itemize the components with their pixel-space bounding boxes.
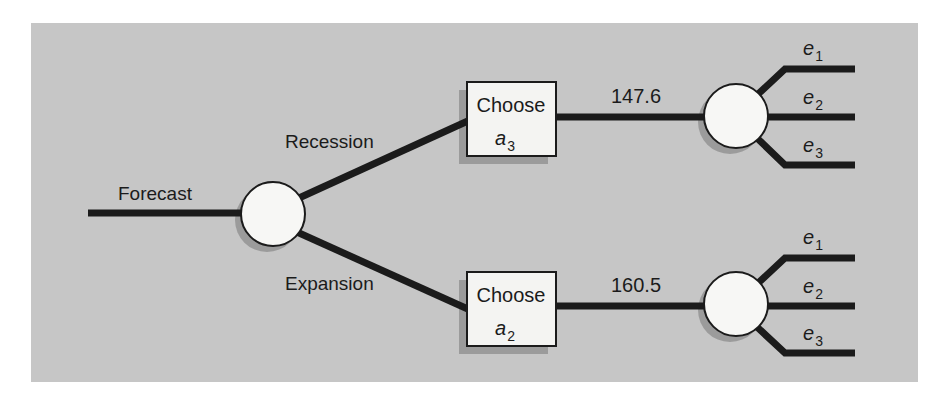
label-recession: Recession: [285, 131, 374, 152]
label-lower-outcome-e1-letter: e: [803, 226, 814, 248]
label-value-recession: 147.6: [611, 85, 661, 107]
label-upper-outcome-e2-subscript: 2: [815, 97, 823, 113]
label-forecast: Forecast: [118, 183, 193, 204]
decision-tree-figure: Forecast Recession Expansion Choose a3 C…: [0, 0, 947, 404]
label-expansion: Expansion: [285, 273, 374, 294]
label-upper-outcome-e2-letter: e: [803, 86, 814, 108]
root-chance-node[interactable]: [241, 182, 305, 246]
lower-chance-node[interactable]: [704, 272, 768, 336]
label-value-expansion: 160.5: [611, 274, 661, 296]
label-lower-outcome-e2-letter: e: [803, 275, 814, 297]
label-lower-outcome-e3-letter: e: [803, 322, 814, 344]
label-upper-outcome-e3-letter: e: [803, 134, 814, 156]
label-lower-outcome-e2-subscript: 2: [815, 286, 823, 302]
upper-chance-node[interactable]: [704, 84, 768, 148]
label-upper-outcome-e1-letter: e: [803, 37, 814, 59]
label-upper-outcome-e3-subscript: 3: [815, 145, 823, 161]
decision-box-a3-variable-subscript: 3: [507, 138, 515, 154]
decision-box-a2-variable-letter: a: [495, 317, 506, 339]
decision-box-a3-title: Choose: [477, 94, 546, 116]
label-lower-outcome-e1-subscript: 1: [815, 237, 823, 253]
label-lower-outcome-e3-subscript: 3: [815, 333, 823, 349]
label-upper-outcome-e1-subscript: 1: [815, 48, 823, 64]
decision-box-a2-variable-subscript: 2: [507, 328, 515, 344]
decision-box-a2-title: Choose: [477, 284, 546, 306]
decision-box-a3-variable-letter: a: [495, 127, 506, 149]
